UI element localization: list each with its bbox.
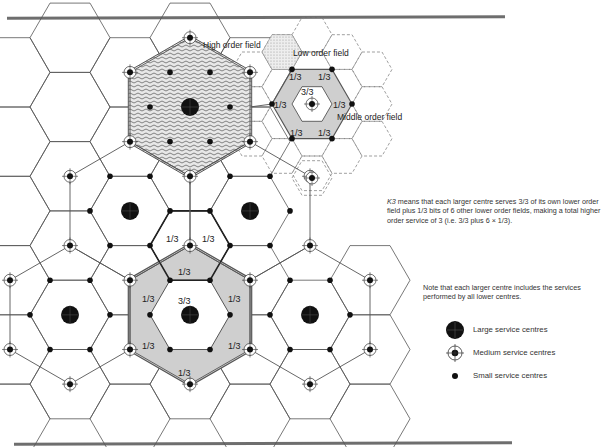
upper-share-w: 1/3 [166,234,179,244]
upper-share-e: 1/3 [202,234,215,244]
main-centre-fraction: 3/3 [178,296,191,306]
medium-centre-icon [443,343,467,363]
k3-text: means that each larger centre serves 3/3… [387,197,600,225]
main-share-se: 1/3 [228,341,241,351]
small-centre-icon [443,366,467,386]
shaded-fields [128,35,352,386]
legend-label: Medium service centres [473,348,555,357]
inset-share-sw: 1/3 [290,128,303,138]
inset-share-se: 1/3 [318,128,331,138]
middle-order-field-label: Middle order field [337,112,402,122]
legend-item-large: Large service centres [443,318,555,341]
k3-term: K3 [387,197,396,206]
high-order-field-label: High order field [203,40,261,50]
inset-share-nw: 1/3 [289,72,302,82]
main-share-n: 1/3 [178,267,191,277]
legend-label: Small service centres [473,371,547,380]
main-share-nw: 1/3 [142,294,155,304]
legend-label: Large service centres [473,325,548,334]
inset-share-e: 1/3 [333,100,346,110]
main-share-ne: 1/3 [228,294,241,304]
main-share-s: 1/3 [178,368,191,378]
main-share-sw: 1/3 [142,341,155,351]
services-note: Note that each larger centre includes th… [423,283,612,302]
low-order-field-label: Low order field [293,48,349,58]
legend-item-small: Small service centres [443,364,555,387]
inset-share-ne: 1/3 [318,72,331,82]
legend: Large service centres Medium service cen… [443,318,555,387]
legend-item-medium: Medium service centres [443,341,555,364]
large-centre-icon [443,320,467,340]
inset-share-w: 1/3 [274,100,287,110]
inset-centre-fraction: 3/3 [301,87,314,97]
k3-explanation: K3 means that each larger centre serves … [387,197,612,225]
